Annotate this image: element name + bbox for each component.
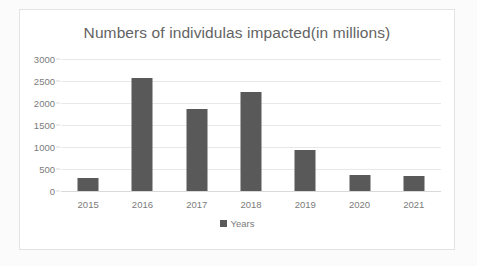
- chart-container: Numbers of individulas impacted(in milli…: [19, 9, 455, 250]
- x-axis-label-2020: 2020: [349, 199, 370, 210]
- y-axis-label-1000: 1000: [34, 142, 55, 153]
- y-axis-tick-mark-500: [56, 169, 60, 170]
- x-axis-label-2018: 2018: [240, 199, 261, 210]
- y-axis-tick-mark-2500: [56, 81, 60, 82]
- page-background: Numbers of individulas impacted(in milli…: [0, 0, 477, 266]
- chart-title: Numbers of individulas impacted(in milli…: [20, 24, 454, 42]
- gridline-2500: [61, 81, 441, 82]
- bar-2018: [241, 92, 262, 191]
- y-axis-label-0: 0: [50, 186, 55, 197]
- y-axis-tick-mark-2000: [56, 103, 60, 104]
- y-axis-label-2000: 2000: [34, 98, 55, 109]
- gridline-3000: [61, 59, 441, 60]
- bar-2021: [403, 176, 424, 191]
- x-axis-label-2017: 2017: [186, 199, 207, 210]
- bar-2017: [186, 109, 207, 191]
- y-axis-tick-mark-1500: [56, 125, 60, 126]
- y-axis-tick-mark-0: [56, 191, 60, 192]
- bar-2020: [349, 175, 370, 191]
- legend-swatch-years: [220, 220, 227, 227]
- y-axis-label-1500: 1500: [34, 120, 55, 131]
- x-axis-label-2019: 2019: [295, 199, 316, 210]
- plot-area: 0500100015002000250030002015201620172018…: [61, 59, 441, 191]
- y-axis-label-3000: 3000: [34, 54, 55, 65]
- y-axis-tick-mark-3000: [56, 59, 60, 60]
- gridline-0: [61, 191, 441, 192]
- x-axis-label-2015: 2015: [78, 199, 99, 210]
- bar-2016: [132, 78, 153, 191]
- bar-2019: [295, 150, 316, 191]
- y-axis-tick-mark-1000: [56, 147, 60, 148]
- x-axis-label-2021: 2021: [403, 199, 424, 210]
- y-axis-label-500: 500: [39, 164, 55, 175]
- chart-legend: Years: [20, 218, 454, 229]
- bar-2015: [78, 178, 99, 191]
- y-axis-label-2500: 2500: [34, 76, 55, 87]
- legend-label-years: Years: [231, 218, 255, 229]
- x-axis-label-2016: 2016: [132, 199, 153, 210]
